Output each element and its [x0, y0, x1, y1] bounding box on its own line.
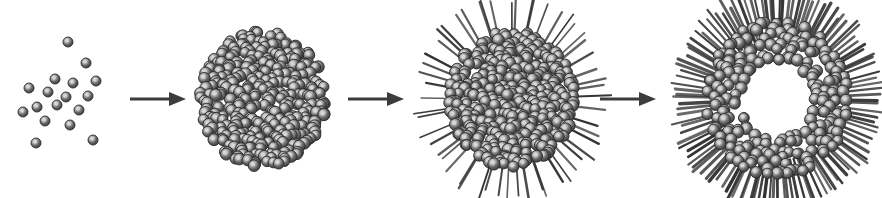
- assembly-diagram-figure: Dispersed nanoparticles Dense spherical …: [0, 0, 882, 198]
- assembly-diagram-canvas: [0, 0, 882, 198]
